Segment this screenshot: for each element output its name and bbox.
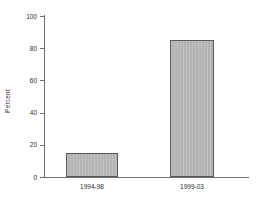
y-axis-tick-label: 0 <box>7 174 37 181</box>
bar[interactable] <box>66 153 118 177</box>
y-axis-tick <box>40 177 44 178</box>
y-axis-tick-label: 20 <box>7 141 37 148</box>
x-axis-line <box>44 177 249 178</box>
y-axis-tick <box>40 16 44 17</box>
bar-chart: Percent 020406080100 1994-981999-03 <box>0 0 258 202</box>
y-axis-tick-label: 100 <box>7 13 37 20</box>
bar[interactable] <box>170 40 214 177</box>
y-axis-tick-label: 80 <box>7 45 37 52</box>
y-axis-tick <box>40 113 44 114</box>
y-axis-tick <box>40 48 44 49</box>
y-axis-tick <box>40 145 44 146</box>
y-axis-tick-label: 40 <box>7 109 37 116</box>
y-axis-line <box>44 15 45 178</box>
x-axis-category-label: 1999-03 <box>162 183 222 191</box>
y-axis-tick-label: 60 <box>7 77 37 84</box>
y-axis-title: Percent <box>0 0 14 202</box>
y-axis-tick <box>40 80 44 81</box>
x-axis-category-label: 1994-98 <box>62 183 122 191</box>
